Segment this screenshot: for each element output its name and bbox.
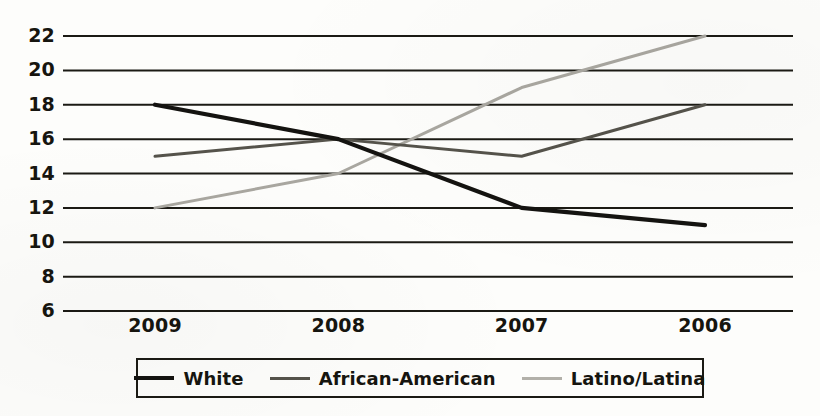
y-tick-label: 16 xyxy=(9,129,55,148)
y-tick-label: 22 xyxy=(9,26,55,45)
plot-canvas xyxy=(0,0,820,340)
line-chart: 2220181614121086 2009200820072006 WhiteA… xyxy=(0,0,820,416)
x-tick-label: 2008 xyxy=(278,315,398,336)
x-axis-tick-labels: 2009200820072006 xyxy=(0,315,820,349)
y-tick-label: 18 xyxy=(9,95,55,114)
legend-label: White xyxy=(183,368,243,389)
legend-item: White xyxy=(134,368,243,389)
y-tick-label: 12 xyxy=(9,198,55,217)
y-tick-label: 20 xyxy=(9,60,55,79)
plot-area xyxy=(0,0,820,340)
legend-item: African-American xyxy=(270,368,496,389)
legend-label: Latino/Latina xyxy=(571,368,706,389)
y-tick-label: 8 xyxy=(9,267,55,286)
legend-item: Latino/Latina xyxy=(522,368,706,389)
x-tick-label: 2009 xyxy=(95,315,215,336)
chart-legend: WhiteAfrican-AmericanLatino/Latina xyxy=(136,358,704,398)
legend-line-swatch xyxy=(270,377,310,380)
legend-line-swatch xyxy=(134,376,174,380)
y-tick-label: 10 xyxy=(9,232,55,251)
x-tick-label: 2007 xyxy=(462,315,582,336)
legend-label: African-American xyxy=(319,368,496,389)
y-tick-label: 14 xyxy=(9,164,55,183)
y-axis-tick-labels: 2220181614121086 xyxy=(0,0,55,340)
x-tick-label: 2006 xyxy=(645,315,765,336)
legend-line-swatch xyxy=(522,377,562,380)
